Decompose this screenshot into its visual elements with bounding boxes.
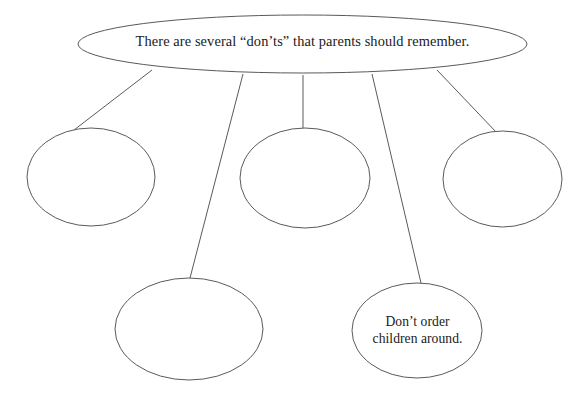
connector-line-1 <box>74 70 152 130</box>
detail-ellipse-1[interactable] <box>27 128 155 226</box>
detail-ellipse-5[interactable] <box>443 131 562 227</box>
main-idea-ellipse[interactable] <box>78 15 527 73</box>
diagram-canvas <box>0 0 588 403</box>
detail-ellipse-2[interactable] <box>115 278 263 380</box>
detail-ellipse-3[interactable] <box>240 128 370 228</box>
diagram-page: There are several “don’ts” that parents … <box>0 0 588 403</box>
connector-line-4 <box>372 74 421 283</box>
connector-line-5 <box>437 70 497 133</box>
connector-line-2 <box>190 74 243 278</box>
detail-ellipse-4[interactable] <box>352 283 482 378</box>
